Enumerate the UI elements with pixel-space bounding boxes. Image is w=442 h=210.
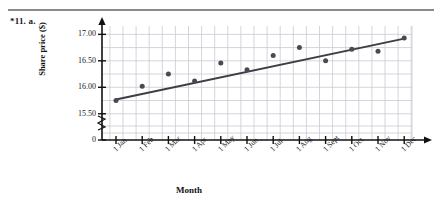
data-point (114, 98, 119, 103)
share-price-scatter-chart: Share price ($) Month 015.5016.0016.5017… (0, 0, 442, 210)
y-axis-tick-label: 16.50 (50, 56, 96, 65)
data-point (140, 84, 145, 89)
data-point (297, 45, 302, 50)
data-point (349, 47, 354, 52)
y-axis-tick-label: 0 (50, 135, 96, 144)
x-axis-title: Month (176, 185, 202, 195)
y-axis-title: Share price ($) (37, 1, 47, 97)
data-point (402, 36, 407, 41)
y-axis-tick-label: 15.50 (50, 109, 96, 118)
data-point (271, 53, 276, 58)
data-point (166, 72, 171, 77)
data-point (323, 58, 328, 63)
y-axis-tick-label: 16.00 (50, 82, 96, 91)
data-point (376, 49, 381, 54)
data-point (245, 67, 250, 72)
y-axis-tick-label: 17.00 (50, 29, 96, 38)
data-point (218, 60, 223, 65)
chart-figure: *11. a. Share price ($) Month 015.5016.0… (0, 0, 442, 210)
data-point (192, 78, 197, 83)
